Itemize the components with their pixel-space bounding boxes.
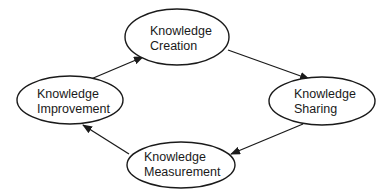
node-sharing-line2: Sharing	[294, 102, 337, 116]
arrow-improvement-to-creation	[91, 57, 143, 79]
knowledge-cycle-diagram: Knowledge Creation Knowledge Sharing Kno…	[0, 0, 389, 194]
node-knowledge-sharing: Knowledge Sharing	[269, 77, 375, 125]
node-measurement-line1: Knowledge	[144, 150, 206, 164]
node-knowledge-measurement: Knowledge Measurement	[127, 142, 235, 188]
node-knowledge-improvement: Knowledge Improvement	[17, 76, 123, 124]
arrow-measurement-to-improvement	[83, 125, 129, 154]
node-creation-line1: Knowledge	[150, 24, 212, 38]
node-measurement-line2: Measurement	[144, 165, 221, 179]
arrow-sharing-to-measurement	[231, 124, 303, 154]
node-knowledge-creation: Knowledge Creation	[125, 9, 229, 65]
arrow-creation-to-sharing	[228, 50, 309, 79]
node-sharing-line1: Knowledge	[294, 87, 356, 101]
node-improvement-line1: Knowledge	[37, 87, 99, 101]
node-creation-line2: Creation	[150, 39, 197, 53]
node-improvement-line2: Improvement	[37, 102, 110, 116]
